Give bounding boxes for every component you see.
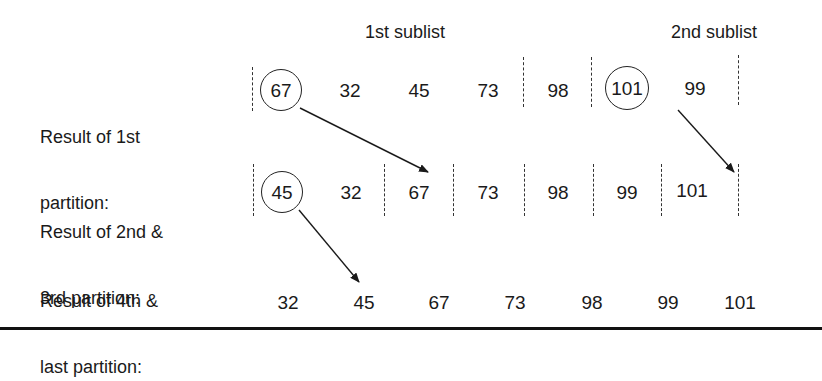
arrow-67 <box>300 108 428 172</box>
bottom-rule <box>0 327 822 330</box>
arrow-101 <box>678 110 734 172</box>
row3-label-line2: last partition: <box>40 356 158 378</box>
arrow-45 <box>299 210 359 282</box>
